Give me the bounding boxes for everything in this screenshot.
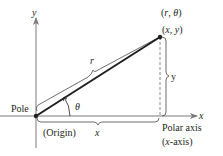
- pole-point: [34, 114, 38, 118]
- rectangular-point-label: (x, y): [162, 24, 183, 36]
- origin-label: (Origin): [43, 127, 76, 139]
- y-brace: [162, 37, 169, 116]
- x-axis-note-label: (x-axis): [162, 136, 193, 148]
- theta-label: θ: [75, 101, 80, 112]
- polar-point-label: (r, θ): [161, 7, 182, 19]
- polar-coordinates-diagram: y x (r, θ) (x, y) r y x θ Pole (Origin) …: [0, 0, 223, 156]
- theta-arc: [64, 97, 70, 116]
- x-brace: [37, 118, 159, 125]
- pole-label: Pole: [11, 103, 29, 114]
- x-segment-label: x: [94, 127, 100, 138]
- radius-line: [36, 37, 160, 116]
- y-segment-label: y: [171, 71, 176, 82]
- rectangular-point: [158, 35, 162, 39]
- r-label: r: [90, 55, 94, 66]
- polar-axis-label: Polar axis: [162, 122, 202, 133]
- x-axis-label: x: [198, 110, 204, 121]
- y-axis-label: y: [31, 7, 37, 18]
